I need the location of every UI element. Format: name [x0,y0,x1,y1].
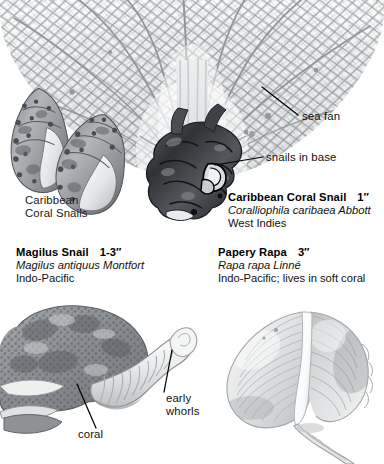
callout-snails-in-base: snails in base [266,151,336,164]
papery-rapa-locality: Indo-Pacific; lives in soft coral [218,272,365,285]
papery-rapa-illustration [206,300,384,464]
caribbean-coral-snail-common-name: Caribbean Coral Snail [228,191,346,204]
callout-early-whorls: early whorls [166,392,200,418]
papery-rapa-title-row: Papery Rapa 3″ [218,246,365,259]
papery-rapa-common-name: Papery Rapa [218,246,287,259]
caribbean-coral-snail-scientific-name: Coralliophila caribaea Abbott [228,204,371,217]
callout-early-whorls-line-1: early [166,392,200,405]
callout-coral-label: coral [78,428,103,440]
callout-sea-fan-label: sea fan [302,110,340,122]
caribbean-coral-snail-caption: Caribbean Coral Snail 1″ Coralliophila c… [228,191,371,231]
caribbean-coral-snail-title-row: Caribbean Coral Snail 1″ [228,191,371,204]
callout-coral: coral [78,428,103,441]
papery-rapa-caption: Papery Rapa 3″ Rapa rapa Linné Indo-Paci… [218,246,365,286]
magilus-snail-caption: Magilus Snail 1-3″ Magilus antiquus Mont… [16,246,144,286]
callout-snails-in-base-label: snails in base [266,151,336,163]
magilus-snail-title-row: Magilus Snail 1-3″ [16,246,144,259]
magilus-snail-size: 1-3″ [100,246,122,259]
callout-early-whorls-line-2: whorls [166,405,200,418]
magilus-snail-scientific-name: Magilus antiquus Montfort [16,259,144,272]
illustration-plate: Caribbean Coral Snails [0,0,384,464]
callout-sea-fan: sea fan [302,110,340,123]
magilus-snail-locality: Indo-Pacific [16,272,144,285]
papery-rapa-size: 3″ [298,246,310,259]
caribbean-coral-snail-locality: West Indies [228,217,371,230]
magilus-snail-common-name: Magilus Snail [16,246,89,259]
papery-rapa-scientific-name: Rapa rapa Linné [218,259,365,272]
caribbean-coral-snail-size: 1″ [357,191,369,204]
